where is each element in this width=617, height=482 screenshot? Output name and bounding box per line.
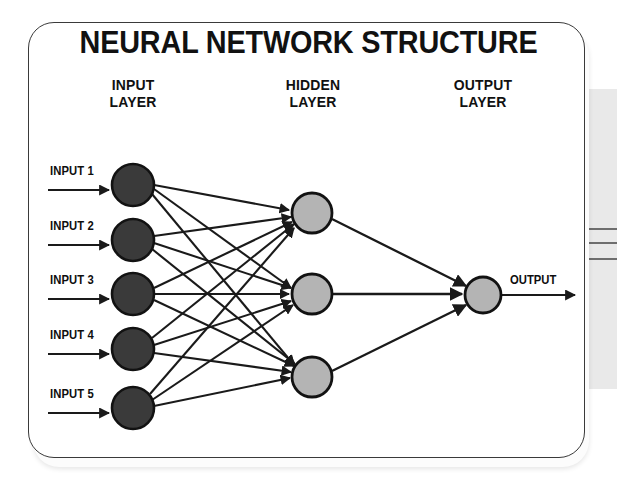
hidden-node-2[interactable] (292, 274, 332, 314)
input-node-1[interactable] (112, 164, 154, 206)
output-label: OUTPUT (510, 273, 556, 287)
edge-i1-h1 (154, 185, 289, 210)
edge-h1-o1 (332, 219, 466, 286)
edge-i5-h2 (152, 305, 293, 400)
edge-i4-h2 (154, 301, 291, 345)
output-node-1[interactable] (465, 277, 501, 313)
edges-hidden-to-output (332, 219, 466, 371)
edge-i1-h2 (154, 189, 291, 288)
screenshot-root: NEURAL NETWORK STRUCTURE INPUT LAYER HID… (0, 0, 617, 482)
input-label-5: INPUT 5 (50, 387, 94, 401)
edge-h3-o1 (332, 305, 466, 371)
network-diagram (0, 0, 617, 482)
input-label-3: INPUT 3 (50, 273, 94, 287)
input-node-4[interactable] (112, 328, 154, 370)
input-node-3[interactable] (112, 273, 154, 315)
input-node-2[interactable] (112, 219, 154, 261)
input-node-group (112, 164, 154, 429)
input-node-5[interactable] (112, 387, 154, 429)
input-label-4: INPUT 4 (50, 328, 94, 342)
hidden-node-1[interactable] (292, 193, 332, 233)
input-label-2: INPUT 2 (50, 219, 94, 233)
hidden-node-group (292, 193, 332, 397)
output-node-group (465, 277, 501, 313)
edges-input-to-hidden (150, 185, 295, 406)
edge-i5-h3 (154, 378, 290, 406)
hidden-node-3[interactable] (292, 357, 332, 397)
input-label-1: INPUT 1 (50, 164, 94, 178)
